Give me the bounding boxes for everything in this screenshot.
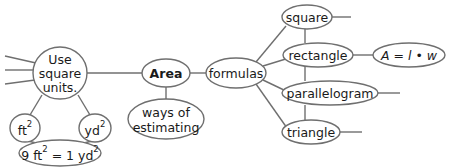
node-ways-line-2: estimating [133, 120, 200, 135]
edge-left-stub-3 [5, 80, 35, 84]
node-area: Area [142, 59, 190, 87]
node-parallelogram-label: parallelogram [286, 86, 373, 101]
svg-text:9 ft2 = 1 yd2: 9 ft2 = 1 yd2 [21, 144, 99, 163]
node-use-square-units-line-1: Use [48, 52, 72, 67]
node-conversion-sup-2: 2 [93, 144, 98, 154]
node-rectangle-formula-label: A = l • w [380, 48, 438, 63]
node-conversion-part-1: 9 ft [21, 148, 42, 163]
node-parallelogram: parallelogram [282, 81, 378, 105]
node-ft2-base: ft [18, 123, 27, 138]
edge-units-ft2 [30, 95, 42, 115]
node-formulas-label: formulas [209, 66, 264, 81]
edge-formulas-square [256, 26, 286, 62]
node-conversion: 9 ft2 = 1 yd2 [19, 140, 101, 166]
node-yd2: yd2 [79, 114, 111, 142]
edge-formulas-parallelogram [263, 80, 286, 91]
node-rectangle-label: rectangle [288, 48, 347, 63]
node-use-square-units-line-3: units. [43, 80, 78, 95]
node-square: square [282, 5, 332, 29]
node-use-square-units: Use square units. [33, 47, 87, 99]
node-yd2-sup: 2 [100, 119, 105, 129]
edge-left-stub-1 [5, 56, 36, 63]
node-rectangle: rectangle [283, 43, 353, 67]
node-triangle: triangle [282, 120, 340, 144]
node-ft2: ft2 [10, 114, 40, 142]
edge-units-yd2 [78, 95, 90, 115]
node-ways-line-1: ways of [142, 105, 190, 120]
node-rectangle-formula: A = l • w [373, 43, 445, 67]
node-ft2-sup: 2 [27, 119, 32, 129]
node-use-square-units-line-2: square [39, 66, 82, 81]
node-ways-of-estimating: ways of estimating [128, 99, 204, 139]
node-yd2-base: yd [85, 123, 100, 138]
node-conversion-part-2: = 1 yd [48, 148, 94, 163]
concept-map: Use square units. ft2 yd2 9 ft2 = 1 yd2 … [0, 0, 458, 167]
node-formulas: formulas [206, 58, 266, 88]
node-triangle-label: triangle [287, 125, 336, 140]
node-square-label: square [286, 10, 329, 25]
node-area-label: Area [150, 66, 183, 81]
